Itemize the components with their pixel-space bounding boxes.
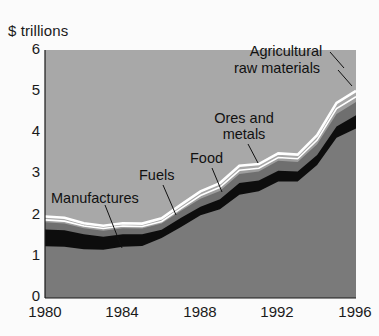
- annotation-agri-line2: raw materials: [222, 60, 332, 76]
- annotation-fuels: Fuels: [139, 167, 174, 183]
- annotation-ores-line2: metals: [205, 126, 283, 142]
- annotation-manufactures: Manufactures: [51, 190, 139, 206]
- annotation-agri-line1: Agricultural: [240, 43, 332, 59]
- x-tick-1992: 1992: [247, 303, 307, 320]
- annotation-ores-line1: Ores and: [205, 110, 283, 126]
- x-tick-1996: 1996: [325, 303, 379, 320]
- x-tick-1984: 1984: [92, 303, 152, 320]
- x-tick-1980: 1980: [15, 303, 75, 320]
- x-tick-1988: 1988: [170, 303, 230, 320]
- stacked-area-chart: $ trillions 6 5 4 3 2 1 0 1980 1984 1988…: [0, 0, 379, 336]
- annotation-food: Food: [190, 150, 223, 166]
